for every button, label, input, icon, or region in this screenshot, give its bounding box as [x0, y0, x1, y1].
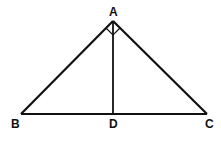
label-D: D [109, 117, 118, 131]
label-B: B [11, 117, 20, 131]
label-A: A [109, 5, 118, 19]
label-C: C [205, 117, 214, 131]
triangle-diagram: A B C D [0, 0, 221, 141]
segment-AC [113, 21, 207, 114]
segment-AB [21, 21, 113, 114]
